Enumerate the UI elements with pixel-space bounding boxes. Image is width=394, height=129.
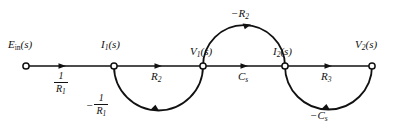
gain-label-r2: R2 — [151, 71, 161, 84]
gain-label-minus-r2-sub: 2 — [245, 12, 249, 21]
node-ein — [23, 63, 29, 69]
arrowhead-branch-r3 — [325, 63, 333, 69]
node-v2 — [369, 63, 375, 69]
signal-flow-graph-figure: Ein(s) I1(s) V1(s) I2(s) V2(s) 1 R1 R2 C… — [0, 0, 394, 129]
node-label-v2-tail: (s) — [365, 38, 377, 50]
gain-label-cs: Cs — [238, 71, 248, 84]
gain-label-cs-sub: s — [245, 75, 248, 84]
gain-label-r3-sub: 3 — [328, 75, 332, 84]
node-label-i1: I1(s) — [101, 39, 120, 52]
node-label-i1-tail: (s) — [108, 38, 120, 50]
node-label-v2: V2(s) — [355, 39, 377, 52]
fraction-numerator: 1 — [94, 93, 108, 104]
fraction-denominator: R1 — [94, 104, 108, 119]
fraction-denominator-sub: 1 — [103, 109, 107, 118]
gain-label-r3: R3 — [321, 71, 331, 84]
gain-label-minus-cs-sub: s — [325, 114, 328, 123]
gain-label-minus-cs-base: C — [317, 109, 324, 121]
node-label-ein-base: E — [8, 38, 15, 50]
node-i1 — [111, 63, 117, 69]
fraction-1-over-r1: 1 R1 — [54, 71, 68, 96]
gain-label-minus-cs: −Cs — [310, 110, 328, 123]
fraction-denominator-sub: 1 — [62, 87, 66, 96]
gain-label-r2-sub: 2 — [158, 75, 162, 84]
node-label-i2-tail: (s) — [280, 45, 292, 57]
arrowhead-branch-1-over-r1 — [59, 63, 67, 69]
arrowhead-arc-minus-r2 — [243, 24, 251, 30]
node-label-v1-base: V — [190, 45, 197, 57]
node-label-ein-tail: (s) — [21, 38, 33, 50]
node-label-v2-base: V — [355, 38, 362, 50]
signal-flow-graph-canvas — [0, 0, 394, 129]
node-label-ein: Ein(s) — [8, 39, 32, 52]
gain-label-minus-1-over-r1: − 1 R1 — [86, 93, 108, 118]
gain-label-minus-r2: −R2 — [231, 8, 249, 21]
fraction-numerator: 1 — [54, 71, 68, 82]
gain-label-r2-base: R — [151, 70, 158, 82]
arrowhead-branch-r2 — [155, 63, 163, 69]
node-label-i2: I2(s) — [273, 46, 292, 59]
node-i2 — [282, 63, 288, 69]
fraction-minus-1-over-r1: 1 R1 — [94, 93, 108, 118]
gain-label-r3-base: R — [321, 70, 328, 82]
arrowhead-arc-minus-1-over-r1 — [150, 105, 159, 110]
gain-label-1-over-r1: 1 R1 — [54, 71, 68, 96]
node-v1 — [200, 63, 206, 69]
fraction-denominator: R1 — [54, 82, 68, 97]
node-label-v1-tail: (s) — [200, 45, 212, 57]
arrowhead-branch-cs — [241, 63, 249, 69]
node-label-v1: V1(s) — [190, 46, 212, 59]
gain-label-minus-1-over-r1-sign: − — [86, 100, 94, 111]
